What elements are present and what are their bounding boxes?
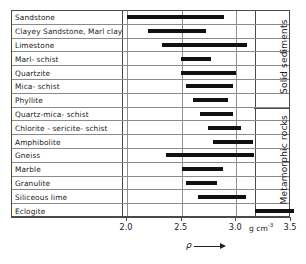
table-row: Eclogite: [12, 204, 289, 218]
chart-frame: SandstoneClayey Sandstone, Marl clayLime…: [11, 10, 290, 217]
row-label: Marble: [15, 165, 41, 174]
density-range-chart: SandstoneClayey Sandstone, Marl clayLime…: [0, 0, 306, 264]
range-bar: [208, 126, 241, 130]
row-label: Gneiss: [15, 151, 40, 160]
range-bar: [162, 43, 247, 47]
row-label: Quartzite: [15, 68, 50, 77]
row-label: Limestone: [15, 40, 54, 49]
arrow-shaft-icon: [194, 246, 220, 247]
row-label: Chlorite - sericite- schist: [15, 123, 108, 132]
group-divider: [254, 108, 289, 109]
axis-tick: [126, 217, 127, 221]
table-row: Gneiss: [12, 149, 289, 163]
axis-tick-label: 2.5: [174, 222, 187, 232]
axis-title: ρ: [186, 240, 226, 250]
row-label: Siliceous lime: [15, 192, 67, 201]
axis-tick: [181, 217, 182, 221]
row-label: Phyllite: [15, 96, 43, 105]
range-bar: [166, 153, 253, 157]
row-label: Clayey Sandstone, Marl clay: [15, 27, 122, 36]
table-row: Mica- schist: [12, 80, 289, 94]
table-row: Amphibolite: [12, 135, 289, 149]
unit-text: g cm: [249, 224, 268, 233]
row-label: Marl- schist: [15, 54, 59, 63]
range-bar: [181, 57, 212, 61]
table-row: Limestone: [12, 39, 289, 53]
axis-tick-label: 2.0: [119, 222, 132, 232]
range-bar: [200, 112, 233, 116]
table-row: Sandstone: [12, 11, 289, 25]
range-bar: [193, 98, 228, 102]
row-label: Mica- schist: [15, 82, 60, 91]
table-row: Quartz-mica- schist: [12, 108, 289, 122]
arrow-head-icon: [220, 243, 226, 249]
row-label: Granulite: [15, 178, 50, 187]
axis-tick-label: 3.0: [229, 222, 242, 232]
row-label: Eclogite: [15, 207, 45, 216]
range-bar: [148, 29, 206, 33]
range-bar: [127, 15, 224, 19]
group-caption: Metamorphic rocks: [279, 105, 289, 215]
axis-tick-label: 3.5: [283, 222, 296, 232]
range-bar: [198, 195, 246, 199]
table-row: Marble: [12, 163, 289, 177]
unit-exponent: -3: [268, 222, 274, 228]
axis-tick: [290, 217, 291, 221]
range-bar: [186, 84, 233, 88]
range-bar: [182, 167, 224, 171]
x-axis-line: [11, 217, 290, 218]
table-row: Phyllite: [12, 94, 289, 108]
range-bar: [213, 140, 252, 144]
row-label: Amphibolite: [15, 137, 61, 146]
table-row: Marl- schist: [12, 52, 289, 66]
table-row: Chlorite - sericite- schist: [12, 121, 289, 135]
rho-symbol: ρ: [186, 240, 192, 250]
axis-unit-label: g cm-3: [249, 222, 273, 233]
table-row: Siliceous lime: [12, 190, 289, 204]
row-label: Quartz-mica- schist: [15, 109, 89, 118]
row-label: Sandstone: [15, 13, 55, 22]
axis-tick: [235, 217, 236, 221]
group-caption: Solid sediments: [279, 8, 289, 105]
table-row: Quartzite: [12, 66, 289, 80]
table-row: Granulite: [12, 177, 289, 191]
table-row: Clayey Sandstone, Marl clay: [12, 25, 289, 39]
range-bar: [181, 71, 237, 75]
range-bar: [186, 181, 217, 185]
